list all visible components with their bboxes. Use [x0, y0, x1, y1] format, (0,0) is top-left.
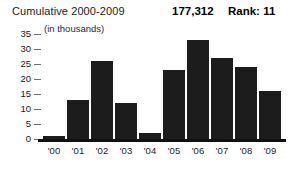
bar[interactable]	[163, 70, 185, 139]
bar-slot	[186, 28, 210, 139]
x-tick-label: '00	[42, 145, 66, 156]
y-axis-tick: 5	[0, 119, 44, 129]
y-tick-mark	[34, 79, 41, 80]
y-tick-label: 5	[26, 119, 31, 129]
x-axis-labels: '00'01'02'03'04'05'06'07'08'09	[42, 145, 282, 161]
x-tick-label: '09	[258, 145, 282, 156]
bar-slot	[258, 28, 282, 139]
y-axis-tick: 30	[0, 44, 44, 54]
bar[interactable]	[67, 100, 89, 139]
bar[interactable]	[259, 91, 281, 139]
bar-slot	[210, 28, 234, 139]
x-axis-line	[38, 139, 286, 142]
bar-slot	[162, 28, 186, 139]
x-tick-label: '02	[90, 145, 114, 156]
bar[interactable]	[235, 67, 257, 139]
x-tick-label: '05	[162, 145, 186, 156]
bar-slot	[114, 28, 138, 139]
bar-slot	[90, 28, 114, 139]
y-tick-mark	[34, 124, 41, 125]
y-tick-label: 20	[20, 74, 31, 84]
y-axis-tick: 15	[0, 89, 44, 99]
y-axis-tick: 10	[0, 104, 44, 114]
bar[interactable]	[187, 40, 209, 139]
y-tick-mark	[34, 109, 41, 110]
x-tick-label: '06	[186, 145, 210, 156]
bar[interactable]	[91, 61, 113, 139]
x-tick-label: '01	[66, 145, 90, 156]
y-axis-tick: 35	[0, 29, 44, 39]
y-tick-mark	[34, 34, 41, 35]
x-tick-label: '04	[138, 145, 162, 156]
y-axis-tick: 20	[0, 74, 44, 84]
bar-slot	[234, 28, 258, 139]
bar[interactable]	[115, 103, 137, 139]
y-tick-mark	[34, 94, 41, 95]
y-tick-mark	[34, 49, 41, 50]
y-tick-label: 15	[20, 89, 31, 99]
y-tick-label: 35	[20, 29, 31, 39]
x-tick-label: '08	[234, 145, 258, 156]
y-tick-label: 10	[20, 104, 31, 114]
bar-slot	[138, 28, 162, 139]
bar[interactable]	[211, 58, 233, 139]
bar-series	[42, 28, 282, 139]
y-tick-label: 30	[20, 44, 31, 54]
y-tick-mark	[34, 64, 41, 65]
bar-slot	[66, 28, 90, 139]
y-tick-label: 0	[26, 134, 31, 144]
y-axis-tick: 25	[0, 59, 44, 69]
x-tick-label: '03	[114, 145, 138, 156]
y-tick-label: 25	[20, 59, 31, 69]
bar-slot	[42, 28, 66, 139]
chart-panel: Cumulative 2000-2009 177,312 Rank: 11 (i…	[0, 0, 295, 172]
x-tick-label: '07	[210, 145, 234, 156]
